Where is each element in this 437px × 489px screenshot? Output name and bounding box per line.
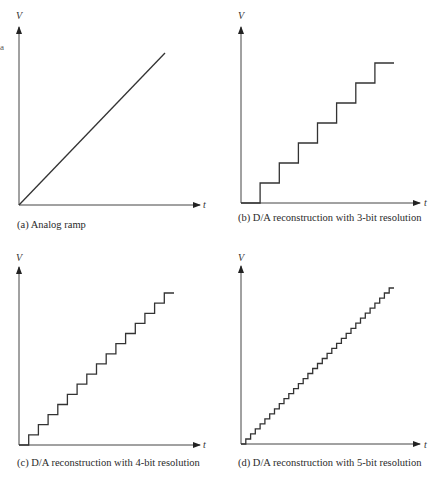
diagram-canvas — [0, 0, 437, 489]
staircase-4bit — [19, 293, 174, 445]
axes-d — [241, 266, 420, 444]
axes-c — [19, 267, 200, 445]
axes-b — [241, 27, 420, 203]
staircase-5bit — [241, 288, 394, 444]
staircase-3bit — [241, 63, 394, 203]
ramp-line — [19, 53, 165, 205]
axes-a — [19, 27, 200, 205]
